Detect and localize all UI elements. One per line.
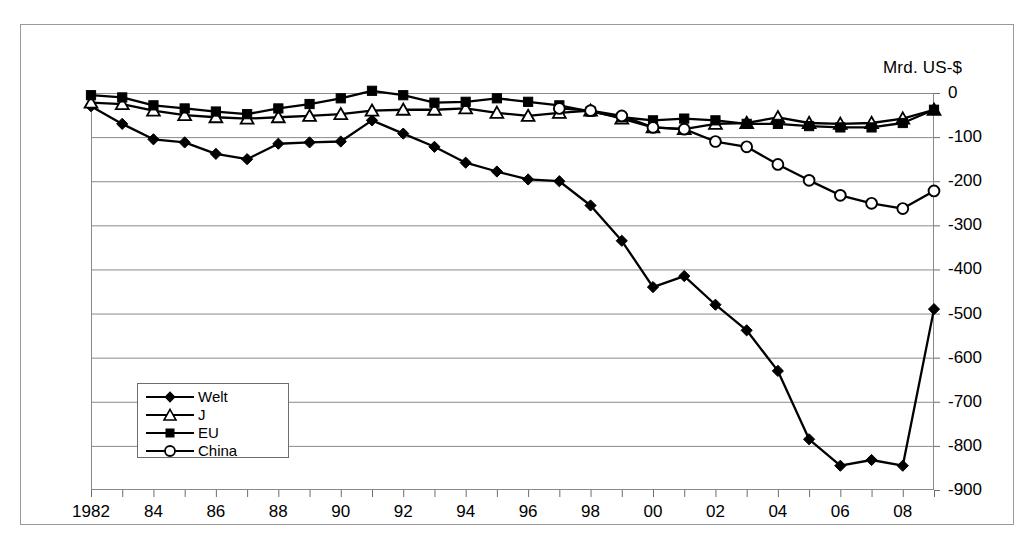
legend-item-j: J xyxy=(144,406,288,423)
point-marker xyxy=(118,93,127,102)
point-marker xyxy=(805,121,814,130)
legend-symbol-filled-diamond xyxy=(144,389,196,405)
point-marker xyxy=(804,175,815,186)
y-tick-label: -600 xyxy=(948,348,982,368)
y-tick-label: -100 xyxy=(948,127,982,147)
legend-label-j: J xyxy=(198,406,206,423)
point-marker xyxy=(399,91,408,100)
point-marker xyxy=(929,105,938,114)
y-tick-label: -400 xyxy=(948,259,982,279)
unit-label: Mrd. US-$ xyxy=(883,58,962,78)
point-marker xyxy=(741,141,752,152)
legend-item-eu: EU xyxy=(144,424,288,441)
point-marker xyxy=(243,110,252,119)
point-marker xyxy=(897,203,908,214)
y-tick-label: 0 xyxy=(948,83,957,103)
legend-item-china: China xyxy=(144,442,288,459)
x-tick-label: 1982 xyxy=(61,502,121,522)
x-tick-label: 90 xyxy=(311,502,371,522)
y-tick-label: -700 xyxy=(948,392,982,412)
point-marker xyxy=(648,122,659,133)
point-marker xyxy=(524,97,533,106)
point-marker xyxy=(274,104,283,113)
x-tick-label: 08 xyxy=(873,502,933,522)
legend-label-china: China xyxy=(198,442,237,459)
point-marker xyxy=(772,159,783,170)
x-tick-label: 84 xyxy=(123,502,183,522)
legend-label-welt: Welt xyxy=(198,388,228,405)
point-marker xyxy=(367,86,376,95)
point-marker xyxy=(898,118,907,127)
legend-symbol-filled-square xyxy=(144,425,196,441)
legend-symbol-open-circle xyxy=(144,443,196,459)
point-marker xyxy=(180,104,189,113)
point-marker xyxy=(492,94,501,103)
point-marker xyxy=(149,101,158,110)
point-marker xyxy=(336,94,345,103)
y-tick-label: -500 xyxy=(948,304,982,324)
legend-label-eu: EU xyxy=(198,424,219,441)
point-marker xyxy=(742,119,751,128)
legend-item-welt: Welt xyxy=(144,388,288,405)
x-tick-label: 98 xyxy=(561,502,621,522)
x-tick-label: 00 xyxy=(623,502,683,522)
point-marker xyxy=(585,105,596,116)
point-marker xyxy=(711,116,720,125)
point-marker xyxy=(554,103,565,114)
chart-page: Mrd. US-$ 0-100-200-300-400-500-600-700-… xyxy=(0,0,1034,549)
x-tick-label: 92 xyxy=(373,502,433,522)
y-tick-label: -900 xyxy=(948,480,982,500)
x-tick-label: 96 xyxy=(498,502,558,522)
x-tick-label: 94 xyxy=(436,502,496,522)
point-marker xyxy=(866,198,877,209)
point-marker xyxy=(835,190,846,201)
point-marker xyxy=(616,111,627,122)
x-tick-label: 02 xyxy=(685,502,745,522)
x-tick-label: 06 xyxy=(810,502,870,522)
x-tick-label: 04 xyxy=(748,502,808,522)
point-marker xyxy=(867,123,876,132)
point-marker xyxy=(211,107,220,116)
point-marker xyxy=(430,98,439,107)
point-marker xyxy=(929,186,940,197)
x-tick-label: 88 xyxy=(248,502,308,522)
y-tick-label: -200 xyxy=(948,171,982,191)
point-marker xyxy=(680,114,689,123)
y-tick-label: -800 xyxy=(948,436,982,456)
point-marker xyxy=(836,123,845,132)
point-marker xyxy=(461,97,470,106)
point-marker xyxy=(679,124,690,135)
point-marker xyxy=(305,99,314,108)
y-tick-label: -300 xyxy=(948,215,982,235)
legend-symbol-open-triangle xyxy=(144,407,196,423)
chart-outer-frame: Mrd. US-$ 0-100-200-300-400-500-600-700-… xyxy=(20,24,1014,525)
x-tick-label: 86 xyxy=(186,502,246,522)
point-marker xyxy=(773,119,782,128)
chart-legend: Welt J EU Chin xyxy=(137,383,289,458)
point-marker xyxy=(86,91,95,100)
point-marker xyxy=(710,136,721,147)
